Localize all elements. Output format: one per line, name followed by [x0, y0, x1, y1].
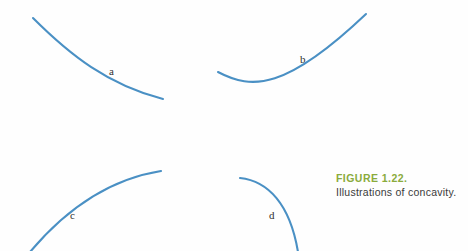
- figure-caption: FIGURE 1.22. Illustrations of concavity.: [336, 172, 464, 199]
- figure-page: a b c d FIGURE 1.22. Illustrations of co…: [0, 0, 468, 251]
- curve-label-b: b: [300, 54, 306, 65]
- curve-label-a: a: [109, 66, 114, 77]
- curve-label-c: c: [70, 210, 75, 221]
- curve-label-d: d: [269, 210, 275, 221]
- figure-caption-text: Illustrations of concavity.: [336, 186, 464, 199]
- figure-caption-title: FIGURE 1.22.: [336, 172, 464, 185]
